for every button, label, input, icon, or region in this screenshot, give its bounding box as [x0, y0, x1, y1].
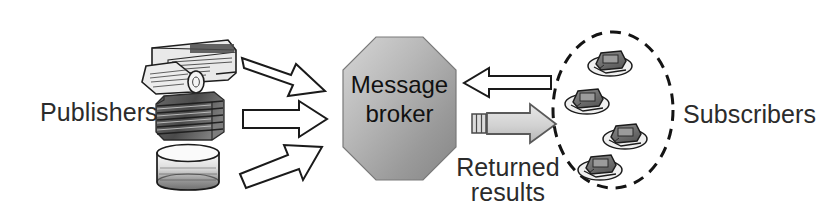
publishers-label: Publishers: [40, 99, 158, 125]
subscriber-computer-icon: [578, 155, 622, 180]
publisher-arrow-bottom: [240, 145, 322, 188]
message-broker-label-line1: Message: [343, 70, 456, 99]
newspaper-icon: [142, 40, 236, 94]
subscriber-computer-icon: [565, 89, 609, 114]
subscribers-label: Subscribers: [683, 101, 816, 127]
document-stack-icon: [156, 92, 224, 140]
returned-results-label: Returned results: [452, 155, 564, 205]
subscribe-request-arrow: [464, 68, 551, 97]
subscriber-computer-icon: [588, 51, 632, 76]
message-broker-label-line2: broker: [343, 99, 456, 128]
returned-results-arrow: [472, 104, 556, 143]
message-broker-label: Message broker: [343, 70, 456, 128]
publisher-arrow-middle: [243, 101, 327, 137]
publisher-arrow-top: [242, 58, 325, 96]
subscriber-computer-icon: [603, 124, 647, 149]
database-cylinder-icon: [157, 145, 219, 191]
diagram-canvas: Publishers Message broker Returned resul…: [0, 0, 836, 219]
